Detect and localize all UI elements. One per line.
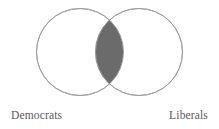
venn-label-liberals: Liberals (169, 109, 208, 122)
venn-diagram-figure: Democrats Liberals (0, 0, 219, 129)
venn-label-democrats: Democrats (11, 109, 62, 122)
